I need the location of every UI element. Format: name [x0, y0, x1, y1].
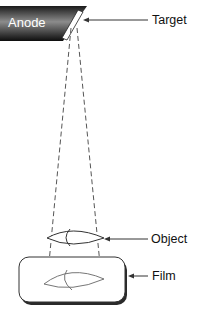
target-pointer-arrow: [83, 18, 148, 23]
anode-label: Anode: [8, 16, 46, 29]
xray-beam: [46, 28, 103, 295]
object-label: Object: [151, 233, 187, 246]
object-pointer-arrow: [104, 237, 148, 242]
object: [47, 229, 104, 246]
film-pointer-arrow: [128, 274, 148, 279]
diagram-canvas: [0, 0, 206, 312]
target-label: Target: [152, 14, 187, 27]
film-label: Film: [152, 270, 176, 283]
